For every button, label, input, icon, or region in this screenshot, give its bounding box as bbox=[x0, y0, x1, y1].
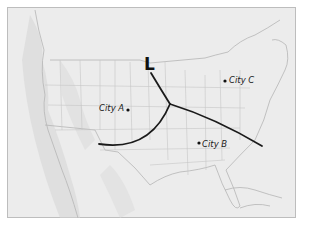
city-c-label: City C bbox=[229, 76, 254, 85]
city-a-dot bbox=[126, 108, 129, 111]
city-c-dot bbox=[223, 79, 226, 82]
terrain-shading bbox=[22, 15, 135, 218]
city-markers bbox=[126, 79, 226, 144]
occluded-front bbox=[151, 73, 170, 104]
map-canvas bbox=[0, 0, 309, 242]
city-b-label: City B bbox=[202, 140, 227, 149]
low-pressure-symbol: L bbox=[144, 56, 155, 73]
city-b-dot bbox=[197, 141, 200, 144]
city-a-label: City A bbox=[99, 104, 124, 113]
